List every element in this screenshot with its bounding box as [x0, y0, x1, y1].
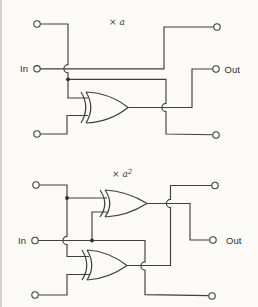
circuit-multiply-by-a-squared: × a2 In Out: [18, 168, 242, 300]
in-label: In: [18, 235, 26, 246]
circuit-figure: × a In Out: [0, 0, 258, 307]
terminal-top-left: [34, 21, 40, 27]
terminal-in: [32, 237, 38, 243]
circuit-multiply-by-a: × a In Out: [20, 17, 240, 138]
terminal-out: [210, 237, 216, 243]
terminal-bottom-left: [32, 292, 38, 298]
terminal-bottom-right: [213, 132, 219, 138]
wire-topleft-to-xor-upper: [40, 24, 88, 98]
junction-dot-upper: [65, 196, 69, 200]
gate-function-label: × a2: [112, 168, 133, 180]
gate-function-label: × a: [109, 17, 125, 27]
xor-gate: [81, 92, 128, 123]
terminal-top-right: [214, 24, 220, 30]
wire-upperxor-output-to-out: [147, 204, 210, 241]
wire-junction-to-upperxor-lower: [92, 212, 107, 241]
in-label: In: [20, 63, 28, 74]
out-label: Out: [225, 64, 241, 75]
junction-dot-in-wire: [90, 239, 94, 243]
scan-edge-artifact: [0, 0, 2, 307]
terminal-bottom-right: [209, 293, 215, 299]
wire-topleft-to-lowerxor-upper: [39, 185, 89, 257]
terminal-top-left: [33, 182, 39, 188]
terminal-top-right: [212, 182, 218, 188]
wire-in-to-topright: [40, 27, 214, 69]
wire-bottomleft-to-lowerxor-lower: [38, 275, 89, 296]
wire-bottomleft-to-xor-lower: [40, 116, 88, 135]
wire-lowerxor-output-to-topright: [127, 186, 212, 266]
wire-xor-output-to-out: [128, 69, 213, 108]
xor-gate-lower: [82, 250, 127, 280]
wires-bottom-circuit: [38, 185, 212, 296]
out-label: Out: [226, 235, 242, 246]
terminal-in: [34, 66, 40, 72]
junction-dot: [66, 77, 70, 81]
xor-gate-upper: [100, 190, 147, 217]
figure-page: × a In Out: [0, 0, 258, 307]
terminal-out: [213, 66, 219, 72]
terminal-bottom-left: [34, 131, 40, 137]
